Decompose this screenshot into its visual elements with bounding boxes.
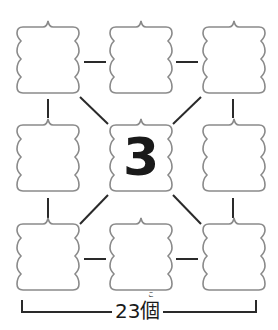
- box-bottom-center: [110, 218, 172, 290]
- center-number: 3: [110, 124, 172, 190]
- furigana: こ: [148, 289, 154, 298]
- box-top-center: [110, 21, 172, 93]
- box-bottom-left: [17, 218, 79, 290]
- box-top-left: [17, 21, 79, 93]
- total-label: 23個: [112, 298, 163, 324]
- box-top-right: [203, 21, 265, 93]
- box-middle-right: [203, 119, 265, 191]
- box-middle-left: [17, 119, 79, 191]
- box-bottom-right: [203, 218, 265, 290]
